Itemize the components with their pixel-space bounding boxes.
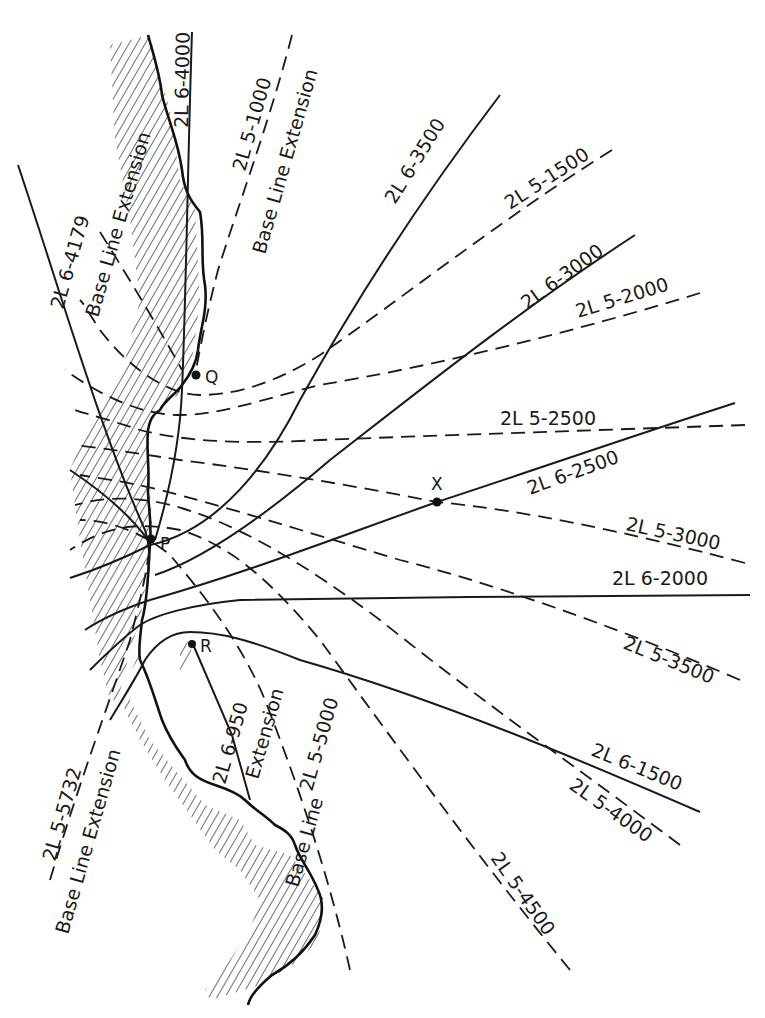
loran-lattice-diagram: Q P R X 2L 6-4000 2L 6-3500 2L 6-3000 2L… <box>0 0 765 1018</box>
label-2l-6-3500: 2L 6-3500 <box>380 114 450 207</box>
point-q-label: Q <box>205 367 218 387</box>
label-2l-5-4500: 2L 5-4500 <box>487 848 560 939</box>
label-2l-5-2500: 2L 5-2500 <box>500 407 596 429</box>
point-p-marker <box>147 535 156 544</box>
point-x-label: X <box>431 474 443 494</box>
label-2l-6-1500: 2L 6-1500 <box>589 738 686 794</box>
point-q-marker <box>192 371 201 380</box>
point-x-marker <box>433 498 442 507</box>
label-2l-5-3000: 2L 5-3000 <box>624 512 722 553</box>
label-2l-6-2000: 2L 6-2000 <box>612 567 708 589</box>
label-2l-5-3500: 2L 5-3500 <box>621 631 718 687</box>
point-p-label: P <box>160 534 170 554</box>
label-extension: Extension <box>241 685 288 781</box>
label-2l-6-2500: 2L 6-2500 <box>524 445 622 499</box>
label-base-line: Base Line <box>281 795 327 889</box>
label-2l-5-4000: 2L 5-4000 <box>566 773 657 846</box>
point-r-label: R <box>200 636 212 656</box>
label-2l-5-1500: 2L 5-1500 <box>500 143 593 214</box>
label-2l-5-5000: 2L 5-5000 <box>295 695 343 793</box>
label-2l-6-4000: 2L 6-4000 <box>170 32 194 128</box>
label-2l-5-1000: 2L 5-1000 <box>228 75 276 173</box>
label-2l-5-2000: 2L 5-2000 <box>573 273 671 322</box>
point-r-marker <box>188 640 196 648</box>
